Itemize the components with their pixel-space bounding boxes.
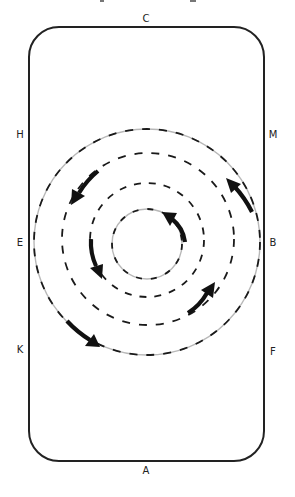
arrow-icon-second-upper-left <box>71 171 98 205</box>
arrow-icon-outer-lower-left <box>67 321 100 347</box>
marker-h: H <box>16 129 24 140</box>
third-circle <box>90 183 204 297</box>
arena-diagram: C A H E K M B F <box>0 0 295 497</box>
cut-off-caption-fragment <box>100 0 104 2</box>
arrow-icon-outer-upper-right <box>226 178 252 212</box>
marker-e: E <box>17 237 23 248</box>
arrow-icon-third-left <box>90 239 103 279</box>
marker-a: A <box>143 465 150 476</box>
arrow-icon-third-lower-right <box>188 282 215 313</box>
marker-c: C <box>143 13 150 24</box>
arena-outline <box>29 27 264 461</box>
marker-f: F <box>270 346 276 357</box>
cut-off-caption-fragment <box>190 0 196 2</box>
marker-b: B <box>270 237 277 248</box>
marker-m: M <box>269 129 278 140</box>
marker-k: K <box>17 344 24 355</box>
